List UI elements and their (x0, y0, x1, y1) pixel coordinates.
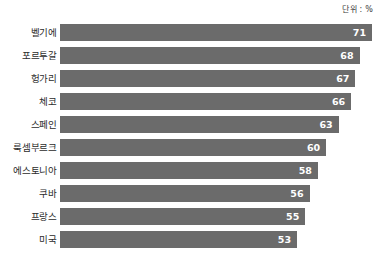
bar-value-label: 55 (60, 208, 299, 225)
category-label: 벨기에 (0, 24, 57, 41)
bar-chart: 단위 : % 벨기에71포르투갈68헝가리67체코66스페인63룩셈부르크60에… (0, 0, 381, 259)
category-label: 미국 (0, 231, 57, 248)
bar-value-label: 53 (60, 231, 291, 248)
bar-row: 체코66 (0, 93, 381, 110)
bar-row: 쿠바56 (0, 185, 381, 202)
bar-value-label: 58 (60, 162, 312, 179)
bar-row: 헝가리67 (0, 70, 381, 87)
bar-value-label: 67 (60, 70, 349, 87)
plot-area: 벨기에71포르투갈68헝가리67체코66스페인63룩셈부르크60에스토니아58쿠… (0, 24, 381, 248)
category-label: 헝가리 (0, 70, 57, 87)
bar-row: 에스토니아58 (0, 162, 381, 179)
category-label: 포르투갈 (0, 47, 57, 64)
category-label: 에스토니아 (0, 162, 57, 179)
category-label: 체코 (0, 93, 57, 110)
category-label: 프랑스 (0, 208, 57, 225)
unit-caption: 단위 : % (342, 3, 373, 14)
bar-row: 벨기에71 (0, 24, 381, 41)
bar-row: 미국53 (0, 231, 381, 248)
category-label: 스페인 (0, 116, 57, 133)
bar-value-label: 71 (60, 24, 366, 41)
bar-row: 룩셈부르크60 (0, 139, 381, 156)
bar-value-label: 60 (60, 139, 320, 156)
bar-value-label: 63 (60, 116, 333, 133)
bar-row: 포르투갈68 (0, 47, 381, 64)
category-label: 룩셈부르크 (0, 139, 57, 156)
bar-value-label: 56 (60, 185, 304, 202)
bar-value-label: 68 (60, 47, 354, 64)
bar-row: 스페인63 (0, 116, 381, 133)
bar-value-label: 66 (60, 93, 345, 110)
bar-row: 프랑스55 (0, 208, 381, 225)
category-label: 쿠바 (0, 185, 57, 202)
